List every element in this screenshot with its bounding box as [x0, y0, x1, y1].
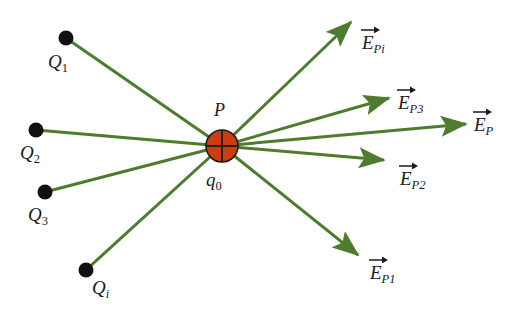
charge-label-q1: Q1 — [48, 52, 68, 74]
vector-label-ep3-sub: P3 — [410, 102, 424, 116]
vector-label-ep-sub: P — [486, 124, 494, 138]
vector-label-ep2-base: E — [400, 168, 412, 189]
vector-label-ep2-symbol: E — [400, 168, 412, 188]
vector-label-ep2: EP2 — [400, 168, 426, 191]
field-vector-arrows — [222, 22, 466, 255]
connector-line-q1 — [66, 38, 222, 146]
vector-label-ep3-symbol: E — [398, 92, 410, 112]
vector-label-ep1-sub: P1 — [382, 272, 396, 286]
vector-label-ep-symbol: E — [474, 114, 486, 134]
vector-label-epi-symbol: E — [362, 32, 374, 52]
point-label-p: P — [214, 101, 225, 119]
vector-label-ep-base: E — [474, 114, 486, 135]
charge-label-qi-sub: i — [106, 287, 109, 301]
charge-label-q1-base: Q — [48, 51, 62, 72]
charge-label-q2-sub: 2 — [34, 152, 40, 166]
vector-label-ep3: EP3 — [398, 92, 424, 115]
charge-label-q1-sub: 1 — [62, 61, 68, 75]
connector-line-q2 — [36, 130, 222, 146]
field-vector-ep2 — [222, 146, 384, 160]
vector-label-ep1: EP1 — [370, 262, 396, 285]
vector-label-ep3-base: E — [398, 92, 410, 113]
vector-label-ep1-base: E — [370, 262, 382, 283]
charge-label-qi: Qi — [92, 278, 109, 300]
charge-label-q3: Q3 — [28, 205, 48, 227]
charge-label-q0-base: q — [206, 169, 216, 190]
charge-label-q3-base: Q — [28, 204, 42, 225]
vector-label-epi-sub: Pi — [374, 42, 385, 56]
charge-dot-q2 — [29, 123, 44, 138]
charge-dot-q1 — [59, 31, 74, 46]
charge-label-q2: Q2 — [20, 143, 40, 165]
vector-label-ep1-symbol: E — [370, 262, 382, 282]
vector-label-ep2-sub: P2 — [412, 178, 426, 192]
test-charge-symbol — [206, 130, 238, 162]
charge-label-q0: q0 — [206, 170, 222, 192]
charge-label-qi-base: Q — [92, 277, 106, 298]
vector-label-ep: EP — [474, 114, 493, 137]
charge-label-q3-sub: 3 — [42, 214, 48, 228]
charge-dot-qi — [79, 263, 94, 278]
vector-label-epi-base: E — [362, 32, 374, 53]
charge-label-q2-base: Q — [20, 142, 34, 163]
field-vector-ep1 — [222, 146, 358, 255]
diagram-canvas — [0, 0, 516, 313]
vector-label-epi: EPi — [362, 32, 385, 55]
electric-field-diagram: Q1 Q2 Q3 Qi P q0 EPi EP3 — [0, 0, 516, 313]
charge-dot-q3 — [38, 185, 53, 200]
charge-label-q0-sub: 0 — [216, 179, 222, 193]
